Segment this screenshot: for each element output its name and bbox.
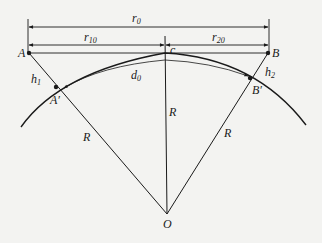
- point-b-prime: [248, 76, 252, 80]
- label-a: A: [17, 46, 26, 60]
- radius-center: [165, 36, 167, 214]
- point-b: [266, 51, 270, 55]
- d0-label: d0: [131, 68, 141, 83]
- point-a: [27, 51, 31, 55]
- label-h1: h1: [31, 72, 41, 87]
- point-a-prime: [54, 85, 58, 89]
- label-b-prime: B′: [252, 83, 262, 97]
- label-h2: h2: [265, 65, 275, 80]
- arc-geometry-diagram: r0 r10 r20 d0 A B c A′ B′ h1 h2 R R R O: [0, 0, 322, 243]
- radius-right: [167, 53, 268, 214]
- label-r-left: R: [82, 130, 91, 144]
- r0-label: r0: [132, 11, 141, 26]
- radius-left: [29, 53, 167, 214]
- label-c: c: [170, 43, 176, 57]
- main-arc: [21, 53, 306, 127]
- label-b: B: [272, 46, 280, 60]
- r20-label: r20: [212, 30, 225, 45]
- r10-label: r10: [84, 30, 97, 45]
- label-r-center: R: [168, 105, 177, 119]
- label-r-right: R: [223, 126, 232, 140]
- label-o: O: [163, 217, 172, 231]
- label-a-prime: A′: [49, 93, 60, 107]
